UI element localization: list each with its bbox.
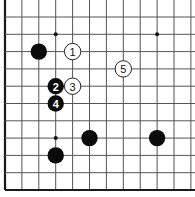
board-grid <box>5 0 195 190</box>
black-stone-4: 4 <box>48 95 64 111</box>
move-number: 5 <box>120 63 126 75</box>
white-stone-3: 3 <box>64 78 80 94</box>
stone-disc <box>31 43 47 59</box>
star-point <box>155 32 159 36</box>
white-stone-5: 5 <box>115 61 131 77</box>
black-stone <box>48 147 64 163</box>
black-stone <box>81 130 97 146</box>
go-board: 12345 <box>0 0 195 197</box>
move-number: 4 <box>53 98 60 110</box>
stone-disc <box>48 147 64 163</box>
star-point <box>54 32 58 36</box>
black-stone <box>149 130 165 146</box>
star-point <box>54 136 58 140</box>
white-stone-1: 1 <box>64 43 80 59</box>
black-stone-2: 2 <box>48 78 64 94</box>
stone-disc <box>81 130 97 146</box>
move-number: 3 <box>70 81 76 93</box>
move-number: 2 <box>53 81 59 93</box>
stone-disc <box>149 130 165 146</box>
black-stone <box>31 43 47 59</box>
move-number: 1 <box>70 46 76 58</box>
